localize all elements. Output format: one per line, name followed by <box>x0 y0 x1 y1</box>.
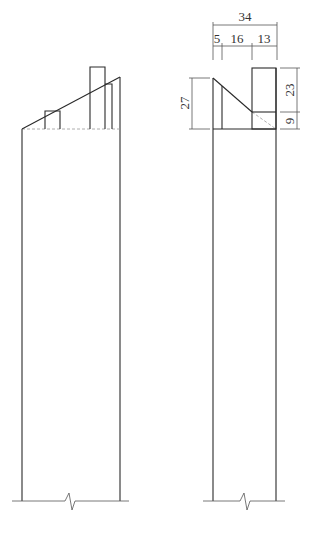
dim-34: 34 <box>239 9 253 24</box>
side-break-line <box>203 493 285 510</box>
front-view <box>12 67 129 510</box>
dimensions: 34 5 16 13 27 23 9 <box>177 9 300 129</box>
dim-23: 23 <box>282 84 297 97</box>
dim-27: 27 <box>177 96 192 110</box>
break-line <box>12 493 129 510</box>
dim-5: 5 <box>214 31 221 46</box>
dim-9: 9 <box>282 118 297 125</box>
side-slope <box>213 78 252 112</box>
drawing-canvas: 34 5 16 13 27 23 9 <box>0 0 316 537</box>
tall-box <box>90 67 105 129</box>
side-tall-rect <box>252 68 276 129</box>
narrow-strip <box>105 84 112 129</box>
dim-13: 13 <box>258 31 271 46</box>
side-view <box>203 68 285 510</box>
small-box <box>45 111 60 129</box>
dim-16: 16 <box>231 31 245 46</box>
side-slope-hidden <box>252 112 276 129</box>
